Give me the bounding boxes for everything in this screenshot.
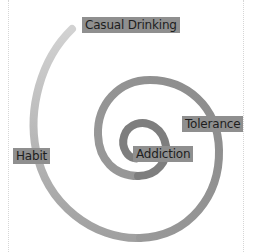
label-tolerance: Tolerance: [182, 116, 243, 132]
label-addiction: Addiction: [133, 146, 193, 162]
spiral-diagram: Casual Drinking Habit Tolerance Addictio…: [0, 0, 253, 252]
label-casual-drinking: Casual Drinking: [82, 17, 180, 33]
label-habit: Habit: [13, 148, 50, 164]
